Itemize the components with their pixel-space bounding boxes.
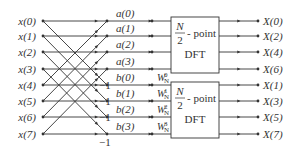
arrow-icon: [95, 67, 98, 70]
arrow-icon: [95, 50, 98, 53]
input-node: [42, 68, 45, 71]
twiddle-sub1: N: [164, 93, 169, 101]
arrow-icon: [95, 132, 98, 135]
input-node: [42, 133, 45, 136]
dft-numerator-top: N: [175, 20, 184, 32]
mid-node: [151, 35, 154, 38]
input-label-3: x(3): [17, 63, 36, 76]
output-label-5: X(3): [262, 95, 283, 108]
output-node: [257, 20, 260, 23]
butterfly-node: [106, 51, 109, 54]
output-node: [257, 68, 260, 71]
output-label-0: X(0): [262, 15, 283, 28]
input-label-2: x(2): [17, 46, 36, 59]
output-node: [257, 84, 260, 87]
arrow-icon: [95, 83, 98, 86]
arrow-icon: [95, 115, 98, 118]
fft-flow-graph: x(0)x(1)x(2)x(3)x(4)x(5)x(6)x(7)a(0)b(0)…: [0, 0, 300, 155]
input-label-6: x(6): [17, 111, 36, 124]
input-label-1: x(1): [17, 30, 36, 43]
input-node: [42, 100, 45, 103]
a-label-3: a(3): [116, 55, 135, 68]
minus-one-label: −1: [99, 111, 111, 123]
dft-label-top: DFT: [185, 48, 206, 60]
arrow-icon: [237, 34, 240, 37]
input-node: [42, 51, 45, 54]
twiddle-sub0: N: [164, 77, 169, 85]
mid-node: [151, 116, 154, 119]
minus-one-label: −1: [99, 79, 111, 91]
dft-point-label-bottom: - point: [187, 92, 216, 104]
mid-node: [151, 133, 154, 136]
butterfly-node: [106, 68, 109, 71]
arrow-icon: [237, 83, 240, 86]
a-label-2: a(2): [116, 38, 135, 51]
arrow-icon: [95, 34, 98, 37]
output-label-4: X(1): [262, 79, 283, 92]
mid-node: [151, 68, 154, 71]
input-node: [42, 116, 45, 119]
input-label-7: x(7): [17, 128, 36, 141]
output-node: [257, 100, 260, 103]
input-label-5: x(5): [17, 95, 36, 108]
output-label-7: X(7): [262, 128, 283, 141]
output-node: [257, 35, 260, 38]
nodes: [42, 20, 260, 136]
arrow-icon: [237, 50, 240, 53]
butterfly-node: [106, 20, 109, 23]
output-node: [257, 133, 260, 136]
input-node: [42, 84, 45, 87]
output-node: [257, 51, 260, 54]
mid-node: [151, 100, 154, 103]
b-label-0: b(0): [116, 71, 135, 84]
output-node: [257, 116, 260, 119]
butterfly-node: [106, 133, 109, 136]
twiddle-sub2: N: [164, 109, 169, 117]
butterfly-node: [106, 35, 109, 38]
arrow-icon: [237, 132, 240, 135]
b-label-2: b(2): [116, 103, 135, 116]
a-label-0: a(0): [116, 7, 135, 20]
signal-lines: [43, 19, 258, 135]
arrow-icon: [237, 67, 240, 70]
mid-node: [151, 84, 154, 87]
dft-point-label-top: - point: [187, 27, 216, 39]
mid-node: [151, 51, 154, 54]
output-label-6: X(5): [262, 111, 283, 124]
labels: x(0)x(1)x(2)x(3)x(4)x(5)x(6)x(7)a(0)b(0)…: [17, 7, 283, 148]
arrow-icon: [95, 99, 98, 102]
arrow-icon: [237, 19, 240, 22]
b-label-1: b(1): [116, 87, 135, 100]
output-label-2: X(4): [262, 46, 283, 59]
arrow-icon: [95, 19, 98, 22]
output-label-1: X(2): [262, 30, 283, 43]
a-label-1: a(1): [116, 22, 135, 35]
b-label-3: b(3): [116, 120, 135, 133]
input-node: [42, 20, 45, 23]
input-label-0: x(0): [17, 15, 36, 28]
mid-node: [151, 20, 154, 23]
dft-numerator-bottom: N: [175, 85, 184, 97]
input-node: [42, 35, 45, 38]
dft-denominator-bottom: 2: [177, 99, 183, 111]
input-label-4: x(4): [17, 79, 36, 92]
minus-one-label: −1: [99, 136, 111, 148]
arrow-icon: [237, 99, 240, 102]
dft-denominator-top: 2: [177, 34, 183, 46]
output-label-3: X(6): [262, 63, 283, 76]
minus-one-label: −1: [99, 95, 111, 107]
dft-label-bottom: DFT: [185, 113, 206, 125]
arrow-icon: [237, 115, 240, 118]
twiddle-sub3: N: [164, 126, 169, 134]
